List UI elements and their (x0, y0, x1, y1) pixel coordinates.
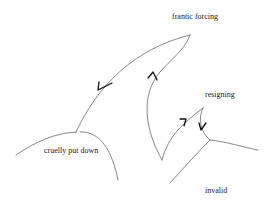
curve-forcing-to-putdown (76, 35, 190, 132)
line-junction-to-invalid (170, 140, 210, 183)
curve-cusp-to-resigning (162, 108, 203, 160)
curve-tip-upper (160, 35, 190, 72)
arrow-down-left-icon (98, 82, 112, 90)
line-junction-right (210, 140, 258, 150)
curve-cusp-to-forcing (147, 72, 162, 160)
arrow-up-icon (148, 72, 157, 80)
diagram-canvas (0, 0, 271, 203)
label-cruelly-put-down: cruelly put down (44, 146, 98, 155)
label-invalid: invalid (205, 186, 227, 195)
label-frantic-forcing: frantic forcing (172, 12, 218, 21)
label-resigning: resigning (205, 90, 235, 99)
arrow-down-icon (199, 123, 206, 130)
hump-right (80, 132, 118, 180)
